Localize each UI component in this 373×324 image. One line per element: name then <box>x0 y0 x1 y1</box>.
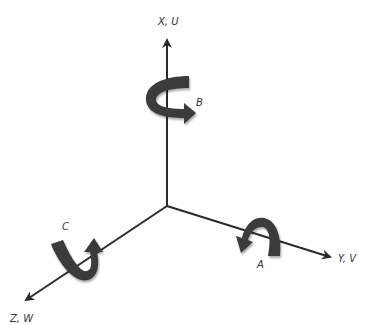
rotation-c-label: C <box>62 221 69 232</box>
rotation-b-arrow-icon <box>146 76 196 124</box>
rotation-a-label: A <box>256 259 264 270</box>
rotation-b-label: B <box>196 97 203 108</box>
rotation-a-arrow-icon <box>236 218 280 256</box>
z-axis-label: Z, W <box>9 313 34 324</box>
axes-diagram: X, U Y, V Z, W B A C <box>0 0 373 324</box>
y-axis-label: Y, V <box>338 253 357 264</box>
x-axis-label: X, U <box>157 16 179 27</box>
rotation-c-arrow-icon <box>51 238 103 280</box>
